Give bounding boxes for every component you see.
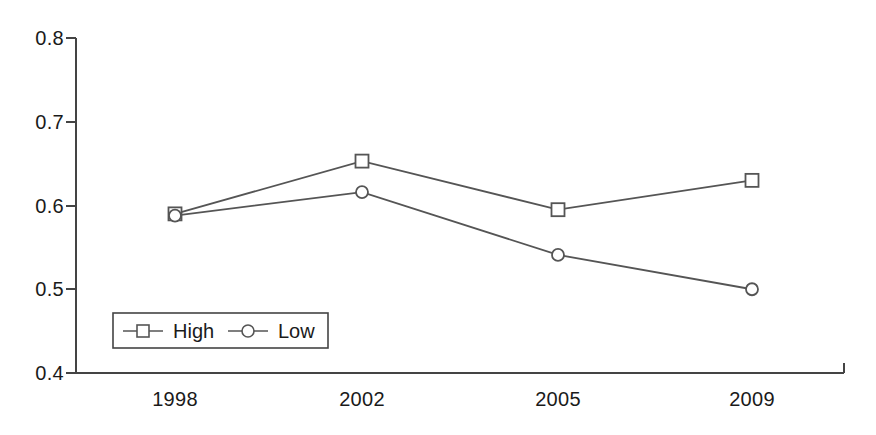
x-tick-label-2005: 2005 [498, 388, 618, 411]
data-point-square-2005 [552, 203, 565, 216]
plot-area [0, 0, 876, 435]
y-tick-label-4: 0.4 [0, 362, 64, 385]
data-point-circle-1998 [169, 210, 181, 222]
series-line-high [175, 161, 752, 214]
data-point-circle-2009 [746, 283, 758, 295]
x-tick-label-1998: 1998 [115, 388, 235, 411]
legend-circle-marker-icon [242, 325, 254, 337]
y-tick-label-0: 0.8 [0, 27, 64, 50]
data-point-square-2002 [356, 155, 369, 168]
data-point-circle-2005 [552, 249, 564, 261]
legend-label-high: High [173, 320, 214, 343]
x-tick-label-2009: 2009 [692, 388, 812, 411]
y-tick-label-3: 0.5 [0, 278, 64, 301]
legend-square-marker-icon [137, 325, 149, 337]
y-tick-label-1: 0.7 [0, 111, 64, 134]
y-tick-label-2: 0.6 [0, 195, 64, 218]
series-line-low [175, 192, 752, 289]
series-markers-low [169, 186, 758, 295]
series-markers-high [169, 155, 759, 221]
x-tick-label-2002: 2002 [302, 388, 422, 411]
line-chart: 0.8 0.7 0.6 0.5 0.4 1998 2002 2005 2009 … [0, 0, 876, 435]
data-point-square-2009 [746, 174, 759, 187]
legend-label-low: Low [278, 320, 315, 343]
data-point-circle-2002 [356, 186, 368, 198]
